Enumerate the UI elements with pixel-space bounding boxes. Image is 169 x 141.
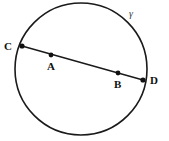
- geometry-canvas: [0, 0, 169, 141]
- chord-cd: [22, 46, 143, 80]
- point-label-a: A: [47, 61, 55, 72]
- point-label-d: D: [150, 75, 158, 86]
- point-label-b: B: [114, 79, 121, 90]
- point-dot-b: [116, 71, 121, 76]
- point-dot-a: [49, 53, 54, 58]
- circle-gamma: [15, 3, 147, 135]
- point-dot-c: [19, 43, 24, 48]
- geometry-figure: C A B D γ: [0, 0, 169, 141]
- point-dot-d: [140, 77, 145, 82]
- circle-label-gamma: γ: [129, 9, 133, 19]
- point-label-c: C: [4, 41, 12, 52]
